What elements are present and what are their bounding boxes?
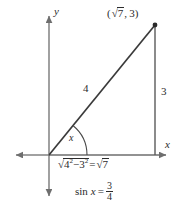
angle-label: x: [69, 133, 73, 143]
sine-denominator: 4: [106, 191, 113, 202]
hypotenuse-length-label: 4: [83, 83, 89, 94]
triangle-hypotenuse: [49, 25, 155, 155]
sine-variable: x: [91, 186, 96, 197]
geometry-figure: y x (√7, 3) 4 3 x √42−32=√7 sinx=34: [0, 0, 184, 208]
figure-canvas: [0, 0, 184, 208]
sine-function-name: sin: [75, 186, 88, 197]
base-result-radical: √7: [95, 158, 109, 170]
x-axis-label: x: [165, 139, 170, 150]
base-length-equation: √42−32=√7: [57, 158, 109, 170]
sine-fraction: 34: [106, 181, 113, 202]
sine-equation: sinx=34: [75, 182, 113, 203]
sine-numerator: 3: [106, 181, 113, 191]
opposite-side-length-label: 3: [161, 86, 167, 97]
y-axis-label: y: [54, 6, 59, 17]
point-coordinate-label: (√7, 3): [107, 7, 138, 19]
base-equation-radical: √42−32: [57, 158, 89, 170]
point-sqrt-7: √7: [111, 7, 125, 19]
base-equation-radicand: 42−32: [63, 158, 89, 170]
point-radicand: 7: [117, 7, 125, 19]
angle-arc: [73, 126, 87, 156]
apex-point-marker: [153, 23, 158, 28]
point-comma: , 3): [124, 8, 138, 19]
base-term-3-exponent: 2: [85, 157, 89, 165]
sine-equals-sign: =: [98, 186, 104, 197]
base-result-radicand: 7: [102, 158, 110, 170]
